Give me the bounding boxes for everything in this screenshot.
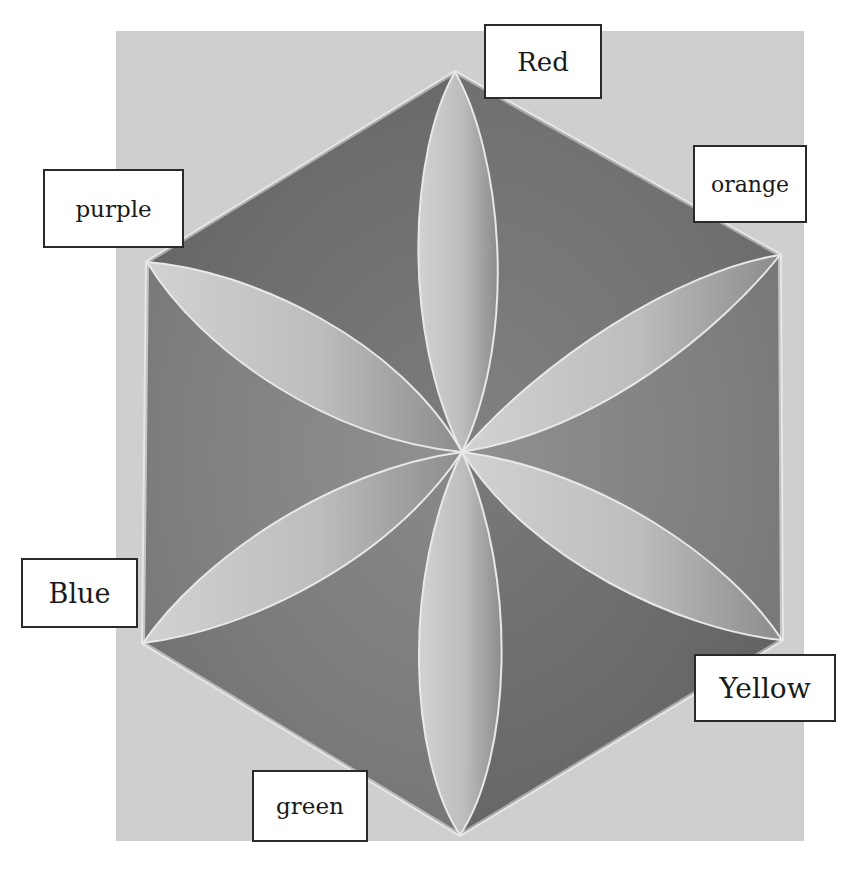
- label-orange: orange: [693, 145, 807, 223]
- label-yellow: Yellow: [694, 654, 836, 722]
- label-orange-text: orange: [711, 172, 789, 197]
- hexagon-flower-painting: [0, 0, 864, 871]
- label-red: Red: [484, 24, 602, 99]
- label-blue: Blue: [21, 558, 138, 628]
- label-yellow-text: Yellow: [719, 672, 810, 705]
- label-purple-text: purple: [75, 196, 151, 222]
- label-blue-text: Blue: [49, 578, 111, 609]
- label-red-text: Red: [517, 47, 569, 77]
- label-green-text: green: [276, 793, 344, 819]
- color-wheel-figure: Red orange Yellow green Blue purple: [0, 0, 864, 871]
- label-purple: purple: [43, 169, 184, 248]
- label-green: green: [252, 770, 368, 842]
